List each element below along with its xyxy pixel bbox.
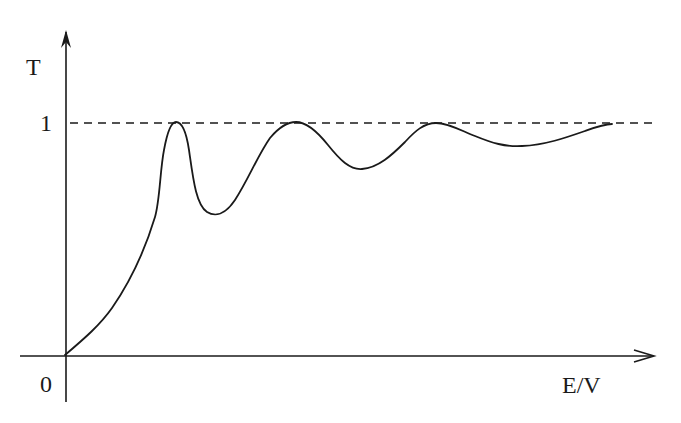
transmission-curve xyxy=(65,122,612,355)
x-axis-label: E/V xyxy=(562,373,601,397)
y-tick-label-one: 1 xyxy=(40,111,52,135)
y-axis-label: T xyxy=(26,55,41,79)
transmission-plot xyxy=(0,0,681,423)
origin-label: 0 xyxy=(40,372,52,396)
